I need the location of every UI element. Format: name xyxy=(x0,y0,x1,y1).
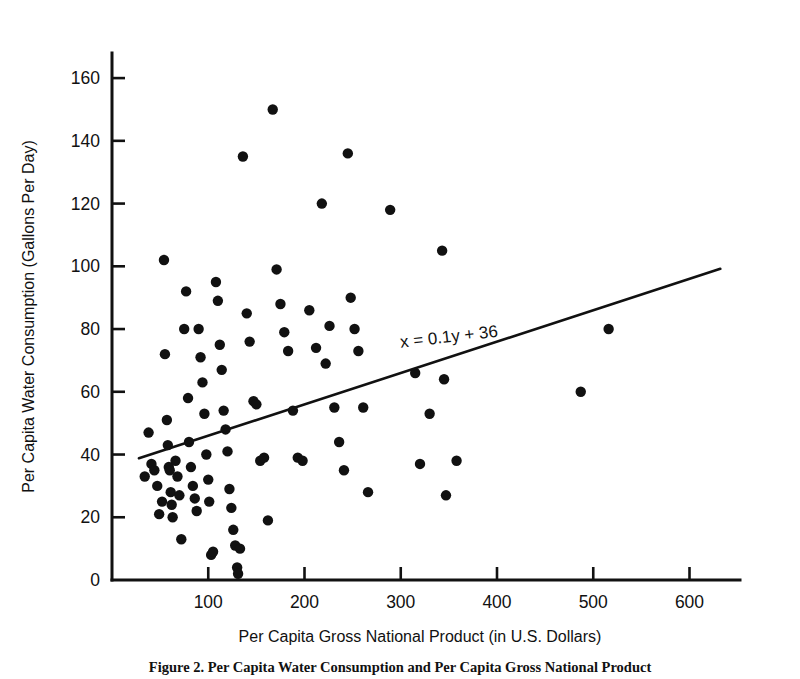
data-point xyxy=(242,308,252,318)
data-point xyxy=(195,352,205,362)
regression-line xyxy=(139,269,720,458)
data-point xyxy=(339,465,349,475)
x-tick-label: 500 xyxy=(579,592,608,612)
data-point xyxy=(159,255,169,265)
data-point xyxy=(218,405,228,415)
data-point xyxy=(441,490,451,500)
data-point xyxy=(603,324,613,334)
data-point xyxy=(203,474,213,484)
data-point xyxy=(226,503,236,513)
data-point xyxy=(251,399,261,409)
data-point xyxy=(213,296,223,306)
y-tick-label: 160 xyxy=(71,68,100,88)
data-point xyxy=(170,456,180,466)
data-point xyxy=(204,496,214,506)
y-tick-label: 0 xyxy=(90,570,100,590)
data-point xyxy=(228,525,238,535)
data-point xyxy=(439,374,449,384)
y-axis-title: Per Capita Water Consumption (Gallons Pe… xyxy=(20,140,37,492)
scatter-plot: 020406080100120140160 100200300400500600… xyxy=(0,0,800,679)
data-point xyxy=(174,490,184,500)
data-point xyxy=(224,484,234,494)
data-point xyxy=(197,377,207,387)
data-point xyxy=(186,462,196,472)
data-point xyxy=(238,151,248,161)
data-point xyxy=(181,286,191,296)
y-tick-label: 80 xyxy=(81,319,101,339)
data-point xyxy=(152,481,162,491)
data-point xyxy=(183,393,193,403)
data-point xyxy=(263,515,273,525)
data-point xyxy=(385,205,395,215)
data-point xyxy=(143,427,153,437)
x-tick-label: 200 xyxy=(290,592,319,612)
data-point xyxy=(149,465,159,475)
data-point xyxy=(172,471,182,481)
data-point xyxy=(259,452,269,462)
x-axis-title: Per Capita Gross National Product (in U.… xyxy=(239,628,602,645)
x-tick-label: 600 xyxy=(675,592,704,612)
data-point xyxy=(157,496,167,506)
data-point xyxy=(279,327,289,337)
data-point xyxy=(162,415,172,425)
data-point xyxy=(199,409,209,419)
data-point xyxy=(275,299,285,309)
data-point xyxy=(211,277,221,287)
data-point xyxy=(576,387,586,397)
data-points xyxy=(140,104,614,579)
y-tick-label: 100 xyxy=(71,256,100,276)
y-tick-label: 120 xyxy=(71,194,100,214)
data-point xyxy=(304,305,314,315)
data-point xyxy=(140,471,150,481)
data-point xyxy=(353,346,363,356)
y-tick-label: 40 xyxy=(81,445,101,465)
data-point xyxy=(363,487,373,497)
data-point xyxy=(437,245,447,255)
data-point xyxy=(297,456,307,466)
data-point xyxy=(343,148,353,158)
figure-container: 020406080100120140160 100200300400500600… xyxy=(0,0,800,679)
data-point xyxy=(235,543,245,553)
data-point xyxy=(154,509,164,519)
data-point xyxy=(179,324,189,334)
data-point xyxy=(317,198,327,208)
data-point xyxy=(190,493,200,503)
data-point xyxy=(160,349,170,359)
y-tick-label: 140 xyxy=(71,131,100,151)
data-point xyxy=(271,264,281,274)
data-point xyxy=(188,481,198,491)
data-point xyxy=(324,321,334,331)
data-point xyxy=(167,512,177,522)
data-point xyxy=(320,358,330,368)
regression-equation-label: x = 0.1y + 36 xyxy=(399,322,499,352)
data-point xyxy=(311,343,321,353)
x-axis-ticks xyxy=(208,567,689,580)
y-tick-label: 20 xyxy=(81,507,101,527)
data-point xyxy=(201,449,211,459)
data-point xyxy=(358,402,368,412)
data-point xyxy=(215,340,225,350)
x-axis-tick-labels: 100200300400500600 xyxy=(194,592,705,612)
y-axis-ticks xyxy=(112,78,125,517)
data-point xyxy=(176,534,186,544)
y-axis-tick-labels: 020406080100120140160 xyxy=(71,68,100,590)
x-tick-label: 400 xyxy=(482,592,511,612)
data-point xyxy=(334,437,344,447)
data-point xyxy=(346,292,356,302)
figure-caption: Figure 2. Per Capita Water Consumption a… xyxy=(149,659,652,675)
data-point xyxy=(451,456,461,466)
x-tick-label: 100 xyxy=(194,592,223,612)
data-point xyxy=(244,336,254,346)
data-point xyxy=(222,446,232,456)
data-point xyxy=(192,506,202,516)
data-point xyxy=(166,500,176,510)
data-point xyxy=(424,409,434,419)
data-point xyxy=(208,547,218,557)
data-point xyxy=(217,365,227,375)
data-point xyxy=(349,324,359,334)
data-point xyxy=(268,104,278,114)
data-point xyxy=(283,346,293,356)
data-point xyxy=(193,324,203,334)
data-point xyxy=(329,402,339,412)
data-point xyxy=(233,569,243,579)
